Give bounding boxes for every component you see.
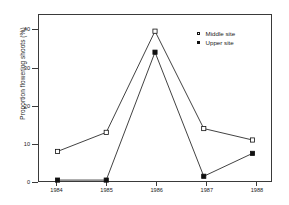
filled-square-icon [196,38,204,47]
series-line [58,52,253,180]
legend-item-middle-site[interactable]: Middle site [196,29,235,38]
data-point-1986 [153,29,157,33]
data-point-1985 [104,130,108,134]
series-line [58,31,253,151]
data-point-1984 [55,149,59,153]
series-middle-site [55,29,254,153]
figure-chart: Proportion flowering shoots (%) 0 10 20 … [0,0,289,205]
legend-item-upper-site[interactable]: Upper site [196,38,235,47]
data-point-1984 [55,178,59,182]
data-point-1988 [250,151,254,155]
data-point-1987 [202,126,206,130]
data-point-1987 [202,174,206,178]
data-point-1988 [250,138,254,142]
data-point-1986 [153,50,157,54]
legend: Middle site Upper site [196,29,235,47]
series-layer [0,0,289,205]
data-point-1985 [104,178,108,182]
series-upper-site [55,50,254,182]
legend-label-upper-site: Upper site [206,39,234,46]
legend-label-middle-site: Middle site [206,30,236,37]
open-square-icon [196,29,204,38]
